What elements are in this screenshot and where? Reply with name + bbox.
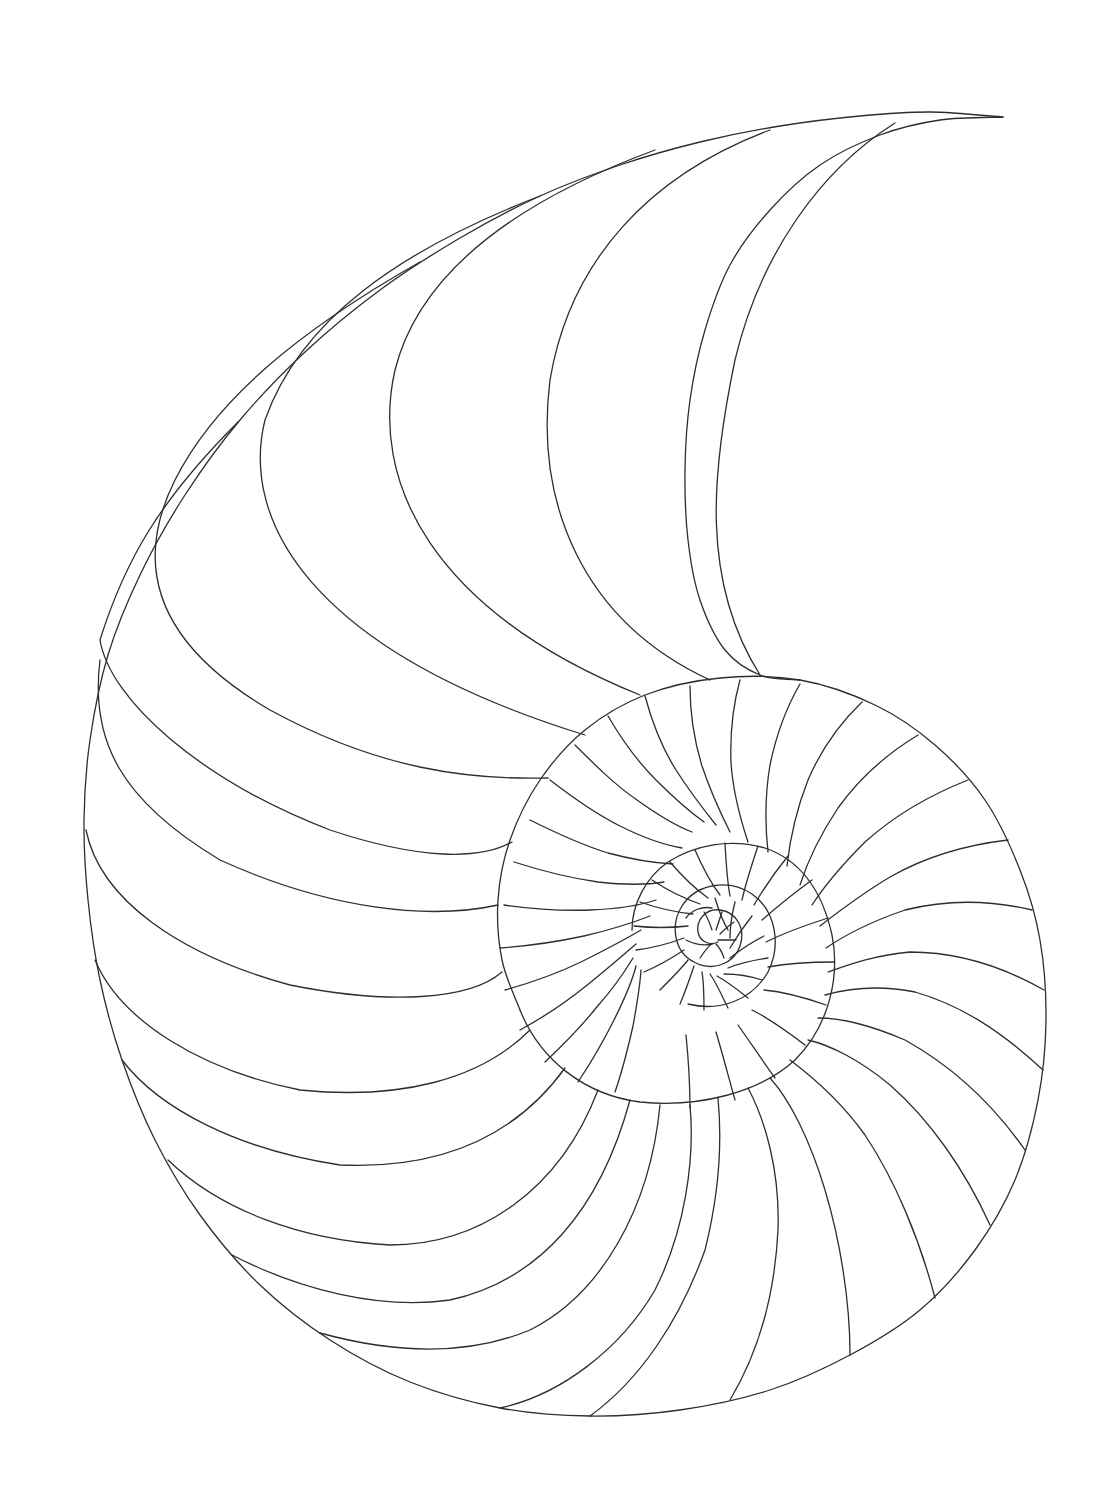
background <box>0 0 1111 1504</box>
nautilus-illustration <box>0 0 1111 1504</box>
nautilus-shell-drawing <box>0 0 1111 1504</box>
